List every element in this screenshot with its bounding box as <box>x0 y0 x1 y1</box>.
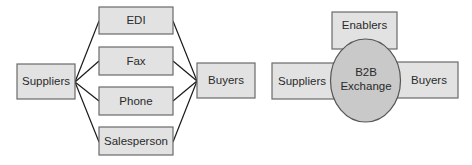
connector-lines <box>75 21 197 142</box>
salesperson-label: Salesperson <box>104 135 168 147</box>
node-exchange-suppliers: Suppliers <box>272 63 338 99</box>
node-phone: Phone <box>99 87 173 115</box>
node-fax: Fax <box>99 47 173 75</box>
b2b-exchange-label-line1: B2B <box>355 66 377 78</box>
edge-suppliers-edi <box>75 21 99 82</box>
suppliers-label: Suppliers <box>22 75 70 87</box>
b2b-exchange-diagram: Enablers Suppliers Buyers B2B Exchange <box>272 12 458 122</box>
node-exchange-buyers: Buyers <box>394 62 458 98</box>
node-b2b-exchange: B2B Exchange <box>331 39 401 122</box>
edge-edi-buyers <box>173 21 197 81</box>
edge-salesperson-buyers <box>173 81 197 142</box>
node-salesperson: Salesperson <box>99 127 173 155</box>
edi-label: EDI <box>126 14 145 26</box>
b2b-exchange-label-line2: Exchange <box>340 80 391 92</box>
enablers-label: Enablers <box>342 19 388 31</box>
fax-label: Fax <box>126 55 145 67</box>
node-buyers: Buyers <box>197 63 255 98</box>
buyers-label: Buyers <box>208 74 244 86</box>
exchange-suppliers-label: Suppliers <box>278 75 326 87</box>
node-suppliers: Suppliers <box>17 64 75 99</box>
phone-label: Phone <box>119 95 152 107</box>
traditional-channels-diagram: Suppliers EDI Fax Phone Salesperson Buye… <box>17 7 255 155</box>
exchange-buyers-label: Buyers <box>411 74 447 86</box>
diagram-canvas: Suppliers EDI Fax Phone Salesperson Buye… <box>0 0 472 165</box>
node-edi: EDI <box>99 7 173 34</box>
